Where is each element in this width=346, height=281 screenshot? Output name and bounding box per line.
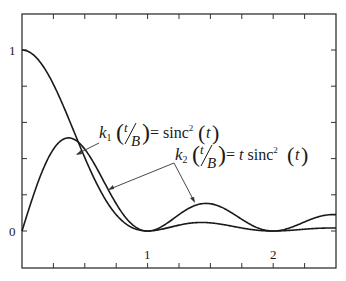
k2-sinc: sinc (243, 146, 273, 163)
svg-text:= t sinc2: = t sinc2 (226, 145, 278, 163)
k2-arrowhead-left-icon (108, 185, 114, 190)
svg-text:k2: k2 (175, 145, 188, 165)
chart-canvas: 1 0 1 2 k1 ( t B ) = sinc2 ( t ) k2 ( t … (0, 0, 346, 281)
k2-arrow-line-right (174, 163, 194, 201)
k2-numerator: t (200, 142, 204, 157)
k2-arrowhead-right-icon (190, 197, 195, 203)
k1-close-paren: ) (142, 119, 150, 145)
k2-close-paren: ) (218, 141, 226, 167)
k2-denominator: B (207, 155, 216, 171)
k1-argument: t (206, 124, 211, 141)
y-tick-label-1: 1 (9, 43, 16, 58)
k2-arg-close-paren: ) (301, 142, 308, 167)
k1-open-paren: ( (116, 119, 124, 145)
k1-arrowhead-icon (76, 150, 82, 155)
k2-open-paren: ( (192, 141, 200, 167)
k2-arg-open-paren: ( (287, 142, 294, 167)
k1-equation: = sinc (150, 124, 189, 141)
annotation-k2: k2 ( t B ) = t sinc2 ( t ) (108, 141, 308, 203)
k1-denominator: B (131, 133, 140, 149)
k2-equation: = (226, 146, 239, 163)
k2-superscript: 2 (273, 145, 278, 155)
svg-text:k1: k1 (99, 123, 112, 143)
svg-text:= sinc2: = sinc2 (150, 123, 193, 141)
k1-numerator: t (124, 120, 128, 135)
x-tick-label-1: 1 (144, 247, 151, 262)
y-tick-label-0: 0 (9, 224, 16, 239)
x-tick-label-2: 2 (270, 247, 277, 262)
k2-subscript: 2 (183, 154, 188, 165)
k2-arrow-line-left (110, 163, 174, 189)
k2-argument: t (295, 146, 300, 163)
k1-superscript: 2 (189, 123, 194, 133)
k1-subscript: 1 (107, 132, 112, 143)
